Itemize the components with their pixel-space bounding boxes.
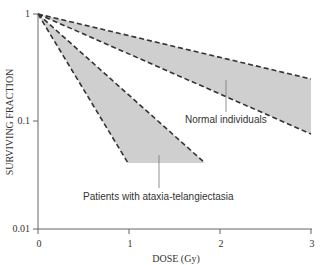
y-tick-1: 1 — [25, 8, 30, 19]
y-axis-label: SURVIVING FRACTION — [4, 69, 15, 176]
survival-chart: 1 0.1 0.01 0 1 2 3 DOSE (Gy) SURVIVING F… — [0, 0, 320, 265]
x-tick-1: 1 — [128, 238, 133, 249]
x-tick-3: 3 — [310, 238, 315, 249]
at-annotation: Patients with ataxia-telangiectasia — [83, 191, 234, 202]
x-axis-label: DOSE (Gy) — [152, 253, 200, 265]
x-tick-2: 2 — [219, 238, 224, 249]
y-tick-0.1: 0.1 — [18, 115, 31, 126]
x-tick-0: 0 — [37, 238, 42, 249]
normal-annotation: Normal individuals — [185, 114, 267, 125]
y-tick-0.01: 0.01 — [13, 223, 31, 234]
